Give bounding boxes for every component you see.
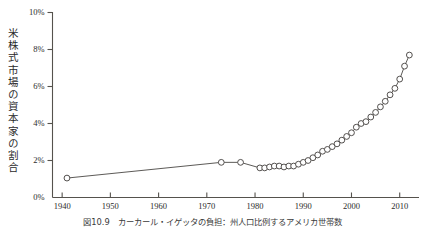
- figure-container: 米株式市場の資本家の割合 0%2%4%6%8%10% 1940195019601…: [0, 0, 425, 227]
- x-tick-label: 1960: [139, 201, 179, 211]
- x-tick-label: 1970: [187, 201, 227, 211]
- y-tick-label: 0%: [19, 192, 45, 202]
- y-tick-label: 10%: [19, 7, 45, 17]
- axes-group: [48, 12, 420, 198]
- y-tick-label: 6%: [19, 81, 45, 91]
- y-tick-label: 2%: [19, 155, 45, 165]
- x-tick-label: 1940: [42, 201, 82, 211]
- y-axis-label: 米株式市場の資本家の割合: [2, 28, 18, 174]
- x-tick-label: 1950: [90, 201, 130, 211]
- figure-caption: 図10.9 カーカール・イゲッタの負担：州人口比例するアメリカ世帯数: [0, 215, 425, 227]
- x-tick-label: 1990: [283, 201, 323, 211]
- chart-plot-area: [0, 0, 425, 227]
- y-tick-label: 8%: [19, 44, 45, 54]
- y-tick-label: 4%: [19, 118, 45, 128]
- x-tick-label: 2010: [380, 201, 420, 211]
- data-series-group: [64, 52, 412, 181]
- x-tick-label: 1980: [235, 201, 275, 211]
- x-tick-label: 2000: [331, 201, 371, 211]
